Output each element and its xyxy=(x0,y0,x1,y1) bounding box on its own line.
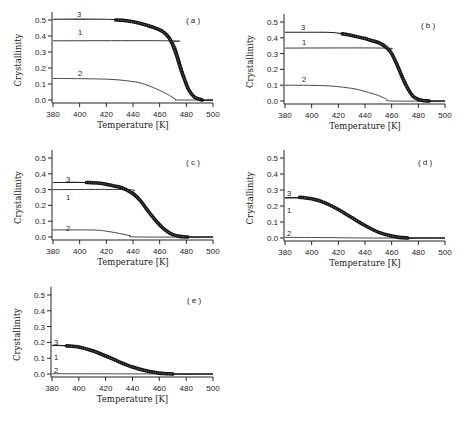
curve-label-1: 1 xyxy=(287,206,291,215)
data-markers xyxy=(342,34,429,101)
x-tick-label: 500 xyxy=(206,110,220,119)
panel-label: ( b ) xyxy=(421,21,436,30)
y-tick-label: 0.0 xyxy=(35,96,47,105)
x-tick-label: 460 xyxy=(153,247,167,256)
x-tick-label: 420 xyxy=(332,111,346,120)
curve-label-2: 2 xyxy=(287,229,291,238)
curve-label-1: 1 xyxy=(302,38,306,47)
x-tick-label: 440 xyxy=(126,384,140,393)
x-tick-label: 380 xyxy=(278,248,292,257)
x-tick-label: 480 xyxy=(180,110,194,119)
y-tick-label: 0.4 xyxy=(267,170,279,179)
figure: 0.00.10.20.30.40.5380400420440460480500T… xyxy=(0,0,464,423)
x-tick-label: 400 xyxy=(73,247,87,256)
curve-3 xyxy=(52,345,213,374)
x-tick-label: 440 xyxy=(126,110,140,119)
x-tick-label: 440 xyxy=(358,248,372,257)
x-axis-label: Temperature [K] xyxy=(97,257,168,267)
y-tick-label: 0.5 xyxy=(267,18,279,27)
curve-3 xyxy=(285,198,445,239)
curve-label-2: 2 xyxy=(78,69,82,78)
curve-3 xyxy=(53,182,213,237)
x-tick-label: 420 xyxy=(100,247,114,256)
curve-label-2: 2 xyxy=(54,366,58,375)
y-tick-label: 0.3 xyxy=(35,48,47,57)
y-axis-label: Crystallinity xyxy=(245,35,255,88)
y-tick-label: 0.0 xyxy=(267,234,279,243)
y-tick-label: 0.2 xyxy=(35,64,47,73)
x-tick-label: 460 xyxy=(385,248,399,257)
data-markers xyxy=(116,20,203,100)
x-tick-label: 500 xyxy=(206,247,220,256)
x-axis-label: Temperature [K] xyxy=(97,120,168,130)
x-tick-label: 460 xyxy=(153,384,167,393)
y-tick-label: 0.4 xyxy=(34,307,46,316)
y-tick-label: 0.5 xyxy=(35,16,47,25)
y-tick-label: 0.3 xyxy=(34,323,46,332)
y-axis-label: Crystallinity xyxy=(13,33,23,86)
x-tick-label: 400 xyxy=(72,384,86,393)
y-tick-label: 0.2 xyxy=(267,65,279,74)
x-tick-label: 460 xyxy=(385,111,399,120)
x-axis-label: Temperature [K] xyxy=(329,121,400,131)
y-axis-label: Crystallinity xyxy=(245,171,255,224)
curve-label-1: 1 xyxy=(54,353,58,362)
panel-label: ( d ) xyxy=(418,158,433,167)
y-axis-label: Crystallinity xyxy=(13,171,23,224)
curve-label-1: 1 xyxy=(78,28,82,37)
y-tick-label: 0.3 xyxy=(267,186,279,195)
x-tick-label: 380 xyxy=(46,110,60,119)
y-tick-label: 0.3 xyxy=(35,186,47,195)
data-markers xyxy=(67,346,173,374)
x-axis-label: Temperature [K] xyxy=(97,394,168,404)
x-tick-label: 400 xyxy=(73,110,87,119)
y-tick-label: 0.2 xyxy=(35,201,47,210)
y-tick-label: 0.4 xyxy=(267,34,279,43)
x-tick-label: 460 xyxy=(153,110,167,119)
curve-label-3: 3 xyxy=(66,175,70,184)
x-tick-label: 500 xyxy=(206,384,220,393)
y-tick-label: 0.2 xyxy=(34,338,46,347)
y-tick-label: 0.4 xyxy=(35,170,47,179)
x-tick-label: 440 xyxy=(358,111,372,120)
curve-label-3: 3 xyxy=(54,338,58,347)
x-tick-label: 380 xyxy=(45,384,59,393)
y-axis-label: Crystallinity xyxy=(12,308,22,361)
panel-label: ( a ) xyxy=(186,16,201,25)
y-tick-label: 0.1 xyxy=(35,217,47,226)
x-tick-label: 440 xyxy=(126,247,140,256)
x-tick-label: 480 xyxy=(412,248,426,257)
x-tick-label: 480 xyxy=(412,111,426,120)
y-tick-label: 0.2 xyxy=(267,202,279,211)
x-tick-label: 420 xyxy=(332,248,346,257)
x-tick-label: 480 xyxy=(180,247,194,256)
y-tick-label: 0.4 xyxy=(35,32,47,41)
curve-1 xyxy=(285,198,445,238)
data-markers xyxy=(300,197,408,238)
curve-3 xyxy=(285,32,445,101)
y-tick-label: 0.0 xyxy=(267,97,279,106)
x-tick-label: 480 xyxy=(179,384,193,393)
data-markers xyxy=(86,182,187,237)
x-tick-label: 380 xyxy=(46,247,60,256)
data-markers-texture xyxy=(342,34,429,101)
y-tick-label: 0.3 xyxy=(267,50,279,59)
x-tick-label: 400 xyxy=(305,111,319,120)
data-markers-texture xyxy=(67,346,173,374)
x-tick-label: 420 xyxy=(100,110,114,119)
curve-1 xyxy=(285,48,445,101)
y-tick-label: 0.0 xyxy=(35,233,47,242)
curve-1 xyxy=(52,346,213,374)
y-tick-label: 0.5 xyxy=(267,154,279,163)
x-tick-label: 500 xyxy=(438,111,452,120)
y-tick-label: 0.1 xyxy=(267,81,279,90)
curve-label-2: 2 xyxy=(302,75,306,84)
curve-label-3: 3 xyxy=(77,10,81,19)
y-tick-label: 0.0 xyxy=(34,370,46,379)
curve-label-3: 3 xyxy=(287,189,291,198)
y-tick-label: 0.1 xyxy=(34,354,46,363)
x-tick-label: 380 xyxy=(278,111,292,120)
y-tick-label: 0.5 xyxy=(34,291,46,300)
x-axis-label: Temperature [K] xyxy=(329,258,400,268)
panel-label: ( e ) xyxy=(187,296,202,305)
